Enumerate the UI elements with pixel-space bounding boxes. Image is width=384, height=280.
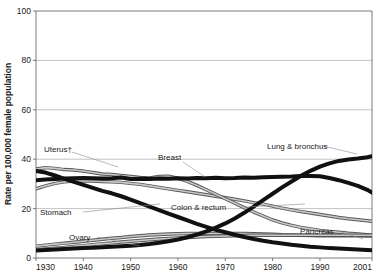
y-tick-label-60: 60: [22, 105, 32, 115]
x-tick-group: [36, 258, 372, 261]
series-label-stomach: Stomach: [40, 208, 72, 217]
y-tick-label-0: 0: [26, 253, 31, 263]
series-label-colon-rectum: Colon & rectum: [171, 203, 226, 212]
x-tick-label-1960: 1960: [169, 262, 188, 272]
x-tick-label-group: 19301940195019601970198019902001: [36, 262, 372, 272]
x-tick-label-1990: 1990: [310, 262, 329, 272]
x-tick-label-1930: 1930: [36, 262, 55, 272]
series-label-lung-bronchus: Lung & bronchus: [267, 142, 328, 151]
cancer-death-rate-chart: 020406080100 193019401950196019701980199…: [0, 0, 384, 280]
plot-background: [36, 11, 372, 258]
y-tick-label-80: 80: [22, 55, 32, 65]
series-label-uterus: Uterus†: [44, 145, 72, 154]
chart-svg: 020406080100 193019401950196019701980199…: [0, 0, 384, 280]
x-tick-label-2001: 2001: [353, 262, 372, 272]
x-tick-label-1980: 1980: [263, 262, 282, 272]
x-tick-label-1970: 1970: [216, 262, 235, 272]
series-label-breast: Breast: [158, 153, 182, 162]
x-tick-label-1950: 1950: [121, 262, 140, 272]
series-label-pancreas: Pancreas: [300, 227, 334, 236]
x-tick-label-1940: 1940: [74, 262, 93, 272]
y-tick-label-group: 020406080100: [17, 6, 31, 263]
y-axis-title: Rate per 100,000 female population: [3, 63, 13, 205]
y-tick-label-20: 20: [22, 204, 32, 214]
y-tick-label-100: 100: [17, 6, 31, 16]
y-tick-label-40: 40: [22, 154, 32, 164]
series-label-ovary: Ovary: [69, 233, 90, 242]
